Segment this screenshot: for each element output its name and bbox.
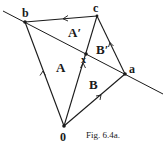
label-x: x bbox=[81, 55, 86, 65]
diagram-lines bbox=[0, 0, 165, 143]
point-b bbox=[23, 20, 27, 24]
region-B: B bbox=[89, 78, 98, 91]
vector-diagram: b c x a 0 A A′ B B′ Fig. 6.4a. bbox=[0, 0, 165, 143]
segment-cb bbox=[25, 16, 97, 22]
region-B-prime: B′ bbox=[96, 43, 108, 56]
line-ba bbox=[3, 11, 163, 94]
region-A-prime: A′ bbox=[68, 26, 81, 39]
arrow-0b-icon bbox=[40, 71, 46, 76]
region-A: A bbox=[56, 61, 65, 74]
label-0: 0 bbox=[60, 131, 66, 143]
label-a: a bbox=[129, 63, 135, 75]
point-a bbox=[123, 72, 127, 76]
figure-caption: Fig. 6.4a. bbox=[86, 130, 120, 140]
point-c bbox=[96, 15, 99, 18]
label-b: b bbox=[22, 7, 29, 19]
label-c: c bbox=[93, 2, 98, 14]
point-0 bbox=[62, 124, 66, 128]
